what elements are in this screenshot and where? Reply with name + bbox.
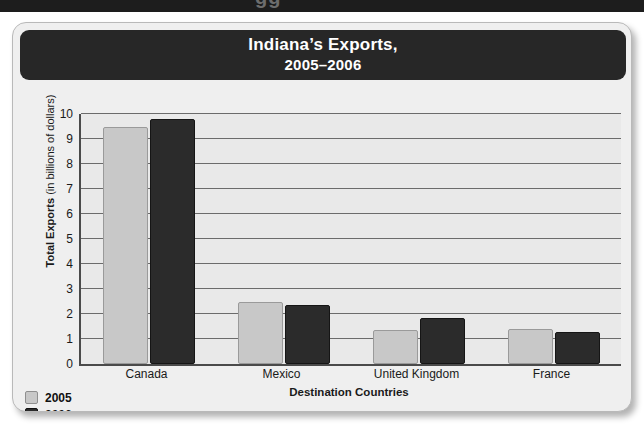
category-label-united-kingdom: United Kingdom <box>347 367 487 381</box>
gridline-10 <box>81 113 621 114</box>
chart-figure-card: Indiana’s Exports, 2005–2006 Total Expor… <box>12 22 632 412</box>
y-axis-tick-4: 4 <box>51 259 73 269</box>
legend-swatch-2005 <box>25 391 38 404</box>
y-axis-tick-7: 7 <box>51 184 73 194</box>
bar-mexico-2006 <box>285 305 330 364</box>
plot-area <box>79 114 621 366</box>
chart-title-line-2: 2005–2006 <box>20 55 626 75</box>
page-top-strip: gg <box>0 0 644 12</box>
chart-plot-wrapper: Total Exports (in billions of dollars) 1… <box>13 83 632 412</box>
legend-swatch-2006 <box>25 408 38 412</box>
bar-canada-2006 <box>150 119 195 364</box>
legend-label-2006: 2006 <box>45 408 72 413</box>
y-axis-tick-2: 2 <box>51 309 73 319</box>
category-label-canada: Canada <box>77 367 217 381</box>
y-axis-tick-8: 8 <box>51 159 73 169</box>
bar-france-2005 <box>508 329 553 364</box>
x-axis-title: Destination Countries <box>79 386 619 398</box>
legend-item-2005: 2005 <box>25 389 115 406</box>
y-axis-tick-labels: 109876543210 <box>51 83 73 363</box>
category-label-mexico: Mexico <box>212 367 352 381</box>
chart-title-line-1: Indiana’s Exports, <box>20 34 626 55</box>
y-axis-tick-6: 6 <box>51 209 73 219</box>
legend-item-2006: 2006 <box>25 406 115 412</box>
bar-mexico-2005 <box>238 302 283 365</box>
y-axis-tick-3: 3 <box>51 284 73 294</box>
y-axis-tick-5: 5 <box>51 234 73 244</box>
chart-title-bar: Indiana’s Exports, 2005–2006 <box>20 30 626 80</box>
category-label-france: France <box>482 367 622 381</box>
y-axis-tick-10: 10 <box>51 109 73 119</box>
bar-canada-2005 <box>103 127 148 365</box>
y-axis-tick-1: 1 <box>51 334 73 344</box>
category-labels: CanadaMexicoUnited KingdomFrance <box>79 367 619 387</box>
y-axis-tick-0: 0 <box>51 359 73 369</box>
bar-united-kingdom-2006 <box>420 318 465 364</box>
bar-france-2006 <box>555 332 600 365</box>
page-top-strip-ghost-text: gg <box>255 0 281 9</box>
bar-united-kingdom-2005 <box>373 330 418 364</box>
legend-label-2005: 2005 <box>45 391 72 405</box>
y-axis-tick-9: 9 <box>51 134 73 144</box>
chart-legend: 20052006 <box>25 389 115 412</box>
